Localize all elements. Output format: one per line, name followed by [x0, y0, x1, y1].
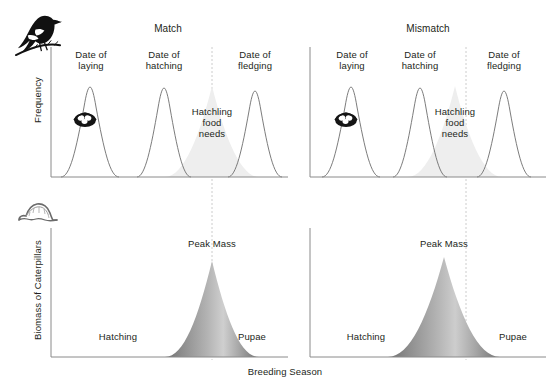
- label-hatchling-food-needs-left: Hatchling food needs: [182, 106, 242, 139]
- nest-with-eggs-icon-left: [74, 113, 96, 127]
- panel-title-mismatch: Mismatch: [393, 23, 463, 34]
- label-date-of-laying-left: Date of laying: [60, 49, 122, 71]
- label-hatchling-food-needs-right: Hatchling food needs: [425, 106, 485, 139]
- label-hatching-right: Hatching: [336, 331, 396, 342]
- label-date-of-hatching-left: Date of hatching: [133, 49, 195, 71]
- y-axis-title-frequency: Frequency: [32, 55, 43, 145]
- label-pupae-left: Pupae: [227, 331, 277, 342]
- y-axis-title-biomass: Biomass of Caterpillars: [32, 220, 43, 360]
- label-peak-mass-left: Peak Mass: [182, 238, 242, 249]
- caterpillar-icon: [19, 204, 57, 221]
- panel-match-frequency: [51, 47, 288, 360]
- label-pupae-right: Pupae: [488, 331, 538, 342]
- caterpillar-biomass-curve-left: [165, 261, 259, 357]
- curve-date-of-fledging-right: [477, 91, 531, 177]
- x-axis-title-breeding-season: Breeding Season: [230, 366, 340, 377]
- label-peak-mass-right: Peak Mass: [414, 238, 474, 249]
- curve-date-of-laying-right: [322, 87, 380, 177]
- nest-with-eggs-icon-right: [335, 113, 357, 127]
- label-hatching-left: Hatching: [88, 331, 148, 342]
- panel-title-match: Match: [133, 23, 203, 34]
- label-date-of-fledging-left: Date of fledging: [224, 49, 286, 71]
- curve-date-of-laying-left: [61, 87, 119, 177]
- label-date-of-laying-right: Date of laying: [321, 49, 383, 71]
- caterpillar-biomass-curve-right: [388, 257, 500, 357]
- magpie-bird-icon: [16, 16, 62, 55]
- phenology-figure: Match Mismatch Date of laying Date of ha…: [0, 0, 551, 391]
- label-date-of-fledging-right: Date of fledging: [473, 49, 535, 71]
- label-date-of-hatching-right: Date of hatching: [389, 49, 451, 71]
